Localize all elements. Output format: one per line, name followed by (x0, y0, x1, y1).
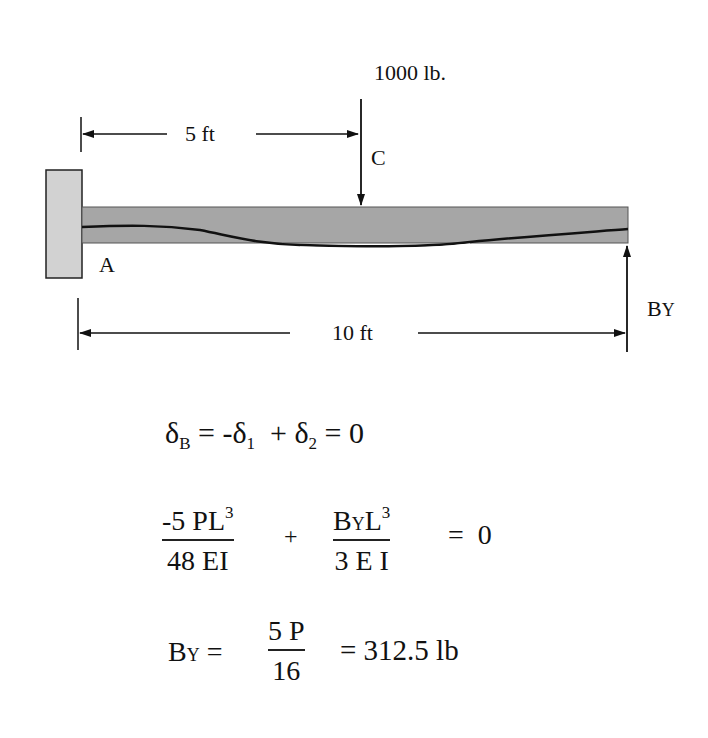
reaction-by-main: B (647, 296, 662, 321)
point-a-label: A (99, 254, 115, 276)
reaction-by-sub: Y (662, 300, 675, 320)
eq1-equals-zero: = 0 (317, 416, 364, 449)
eq1-sub-b: B (179, 434, 190, 453)
eq2-term2-numerator: BYL3 (333, 504, 390, 541)
eq1-minus-delta1: = -δ (190, 416, 246, 449)
eq3-denominator: 16 (268, 651, 305, 685)
eq1-plus-delta2: + δ (255, 416, 309, 449)
fixed-wall-support (46, 170, 82, 278)
beam (82, 207, 628, 243)
eq2-term1-fraction: -5 PL3 48 EI (162, 504, 234, 575)
eq3-numerator: 5 P (268, 617, 305, 651)
dim-10ft-label: 10 ft (332, 322, 373, 344)
eq3-fraction: 5 P 16 (268, 617, 305, 685)
eq2-term2-denominator: 3 E I (333, 541, 390, 575)
eq2-term1-numerator: -5 PL3 (162, 504, 234, 541)
eq3-lhs: BY = (168, 638, 229, 666)
load-magnitude-label: 1000 lb. (374, 62, 446, 84)
eq1-sub-1: 1 (247, 434, 256, 453)
eq2-term1-denominator: 48 EI (162, 541, 234, 575)
eq2-equals-zero: = 0 (448, 521, 492, 549)
eq1-sub-2: 2 (309, 434, 318, 453)
point-c-label: C (371, 147, 386, 169)
reaction-by-label: BY (647, 298, 675, 320)
equation-compatibility: δB = -δ1 + δ2 = 0 (165, 418, 364, 452)
eq3-result: = 312.5 lb (340, 636, 459, 665)
eq1-delta-b: δ (165, 416, 179, 449)
eq2-plus: + (284, 524, 298, 548)
dim-5ft-label: 5 ft (185, 123, 215, 145)
eq2-term2-fraction: BYL3 3 E I (333, 504, 390, 575)
